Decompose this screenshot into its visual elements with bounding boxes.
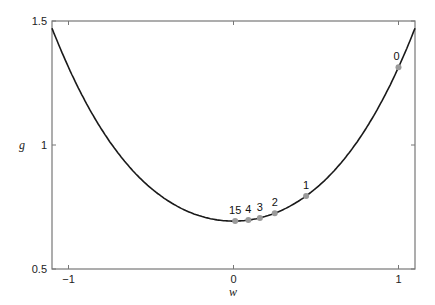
point-label: 2 [272, 196, 278, 208]
iterate-point [245, 217, 251, 223]
point-label: 1 [303, 179, 309, 191]
iterate-point [303, 193, 309, 199]
y-tick-label: 0.5 [32, 263, 47, 275]
curve-line [52, 28, 415, 221]
x-tick-label: −1 [62, 273, 75, 285]
point-label: 15 [229, 204, 241, 216]
point-label: 3 [257, 201, 263, 213]
iterate-point [257, 215, 263, 221]
axes: −1010.511.5 [32, 15, 415, 285]
iterate-point [232, 218, 238, 224]
iterate-point [396, 64, 402, 70]
y-tick-label: 1.5 [32, 15, 47, 27]
plot-frame [52, 21, 415, 269]
iterate-points: 0123415 [229, 50, 401, 224]
chart: −1010.511.5 0123415 w g [0, 0, 435, 305]
x-tick-label: 0 [230, 273, 236, 285]
curve-path [52, 28, 415, 221]
y-tick-label: 1 [41, 139, 47, 151]
y-axis-label: g [19, 138, 25, 152]
point-label: 4 [245, 203, 251, 215]
x-tick-label: 1 [395, 273, 401, 285]
point-label: 0 [393, 50, 399, 62]
iterate-point [272, 210, 278, 216]
x-axis-label: w [229, 285, 237, 299]
